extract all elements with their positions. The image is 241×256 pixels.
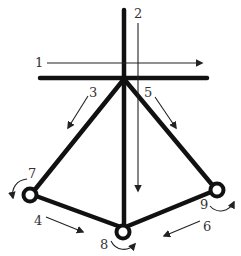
label-5: 5 [144,85,152,100]
label-7: 7 [28,166,36,181]
right-pivot-circle [211,184,224,197]
bottom-pivot-circle [117,226,130,239]
right-lower-link [128,192,211,226]
frame-diagram: 1 2 3 5 7 4 8 9 6 [0,0,241,256]
left-strut [33,79,124,192]
left-pivot-circle [24,189,37,202]
label-9: 9 [200,197,208,212]
rotation-arrow-8 [111,241,135,249]
label-8: 8 [100,237,108,252]
left-lower-link [36,196,118,226]
arrow-3 [68,96,88,128]
arrow-4 [46,217,83,232]
label-2: 2 [134,6,142,21]
rotation-arrow-9 [210,202,234,211]
label-4: 4 [34,213,42,228]
label-1: 1 [35,55,43,70]
arrow-6 [164,221,200,236]
label-6: 6 [203,219,211,234]
label-3: 3 [89,85,97,100]
frame-structure [33,10,214,226]
